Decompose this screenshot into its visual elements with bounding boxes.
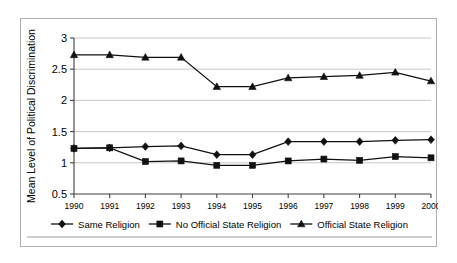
x-tick-label: 1998 [350, 201, 369, 211]
data-point [356, 138, 363, 146]
x-tick-label: 1991 [100, 201, 119, 211]
x-tick-label: 1997 [314, 201, 333, 211]
legend-label: Same Religion [78, 219, 140, 230]
y-tick-label: 2 [61, 94, 67, 106]
y-tick-label: 0.5 [52, 188, 67, 200]
legend-item-same-religion[interactable]: Same Religion [51, 219, 140, 230]
x-tick-label: 1994 [207, 201, 226, 211]
chart-frame: 0.511.522.531990199119921993199419951996… [20, 18, 437, 247]
legend-marker-diamond-icon [59, 220, 66, 228]
y-tick-label: 2.5 [52, 63, 67, 75]
data-point [142, 159, 148, 165]
x-tick-label: 2000 [422, 201, 438, 211]
data-point [392, 136, 399, 144]
data-point [214, 162, 220, 168]
data-point [213, 151, 220, 159]
x-tick-label: 1995 [243, 201, 262, 211]
data-point [178, 142, 185, 150]
data-point [428, 155, 434, 161]
x-tick-label: 1999 [386, 201, 405, 211]
legend-label: No Official State Religion [176, 219, 281, 230]
series-line [74, 55, 431, 87]
y-tick-label: 1 [61, 157, 67, 169]
chart-plot-area: 0.511.522.531990199119921993199419951996… [21, 19, 438, 248]
data-point [71, 145, 77, 151]
x-tick-label: 1992 [136, 201, 155, 211]
series-same-religion [71, 136, 435, 159]
y-axis-title: Mean Level of Political Discrimination [25, 29, 37, 203]
legend-marker-square-icon [157, 221, 163, 227]
data-point [428, 136, 435, 144]
x-tick-label: 1993 [172, 201, 191, 211]
x-tick-label: 1990 [65, 201, 84, 211]
legend-label: Official State Religion [317, 219, 408, 230]
data-point [285, 138, 292, 146]
y-tick-label: 3 [61, 32, 67, 44]
data-point [285, 158, 291, 164]
data-point [249, 151, 256, 159]
data-point [250, 162, 256, 168]
data-point [392, 154, 398, 160]
data-point [321, 138, 328, 146]
data-point [357, 157, 363, 163]
x-tick-label: 1996 [279, 201, 298, 211]
data-point [178, 158, 184, 164]
series-official-state-religion [70, 51, 434, 89]
data-point [142, 143, 149, 151]
legend-item-official-state-religion[interactable]: Official State Religion [290, 219, 408, 230]
data-point [107, 145, 113, 151]
data-point [321, 156, 327, 162]
line-chart: 0.511.522.531990199119921993199419951996… [21, 19, 438, 248]
legend-item-no-official-state-religion[interactable]: No Official State Religion [149, 219, 281, 230]
y-tick-label: 1.5 [52, 126, 67, 138]
